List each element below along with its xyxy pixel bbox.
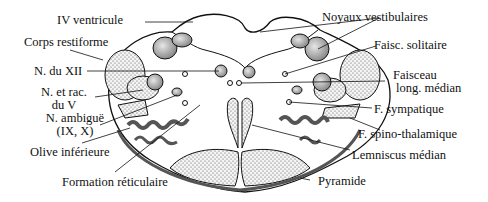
faisc-solitaire-left bbox=[183, 72, 188, 77]
flm-right bbox=[237, 81, 242, 86]
label-noyaux-vestibulaires: Noyaux vestibulaires bbox=[322, 11, 428, 24]
label-f-sympatique: F. sympatique bbox=[374, 103, 444, 116]
label-corps-restiforme: Corps restiforme bbox=[24, 36, 108, 49]
label-faisceau-line2: long. médian bbox=[396, 82, 461, 95]
n-xii-right bbox=[243, 66, 255, 78]
label-olive-inferieure: Olive inférieure bbox=[30, 146, 109, 159]
flm-left bbox=[228, 81, 233, 86]
noyaux-vestibulaires-left-2 bbox=[172, 33, 192, 47]
noyaux-vestibulaires-right-2 bbox=[291, 34, 309, 48]
label-iv-ventricule: IV ventricule bbox=[57, 14, 123, 27]
label-pyramide: Pyramide bbox=[318, 175, 366, 188]
label-n-ambigue-line2: (IX, X) bbox=[40, 125, 110, 138]
n-v-nucleus-left bbox=[147, 74, 163, 90]
small-dot-left bbox=[183, 101, 188, 106]
label-f-spino-thalamique: F. spino-thalamique bbox=[358, 128, 457, 141]
label-faisc-solitaire: Faisc. solitaire bbox=[374, 39, 447, 52]
label-lemniscus-median: Lemniscus médian bbox=[352, 149, 446, 162]
label-n-du-xii: N. du XII bbox=[34, 65, 82, 78]
n-ambigue-right bbox=[292, 86, 302, 94]
n-ambigue-left bbox=[172, 88, 182, 96]
label-formation-reticulaire: Formation réticulaire bbox=[62, 176, 168, 189]
